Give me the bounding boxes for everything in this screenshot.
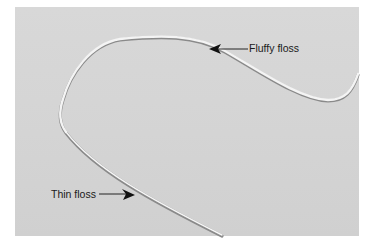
floss-strand-shadow xyxy=(60,38,358,236)
thin-arrowhead-icon xyxy=(122,189,135,200)
fluffy-floss-strand xyxy=(60,37,358,132)
fluffy-floss-label: Fluffy floss xyxy=(249,42,299,54)
thin-floss-strand xyxy=(66,132,222,235)
thin-floss-label: Thin floss xyxy=(51,188,96,200)
floss-illustration xyxy=(0,0,372,248)
